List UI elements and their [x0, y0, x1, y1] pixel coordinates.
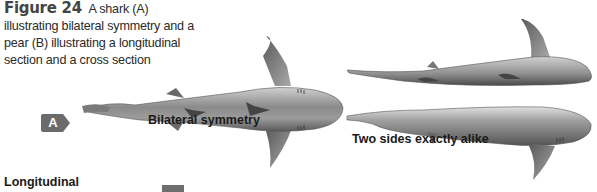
longitudinal-label: Longitudinal — [4, 175, 79, 189]
bilateral-symmetry-label: Bilateral symmetry — [148, 113, 260, 127]
figure-part-badge: A — [41, 114, 71, 132]
shark-half-lower-illustration — [343, 102, 597, 192]
badge-letter: A — [41, 114, 65, 132]
shark-half-upper-illustration — [343, 15, 597, 95]
shark-top-view-illustration — [80, 36, 348, 168]
figure-label: Figure 24 — [4, 0, 82, 17]
pear-illustration-top-edge — [162, 185, 184, 192]
two-sides-alike-label: Two sides exactly alike — [352, 132, 489, 146]
